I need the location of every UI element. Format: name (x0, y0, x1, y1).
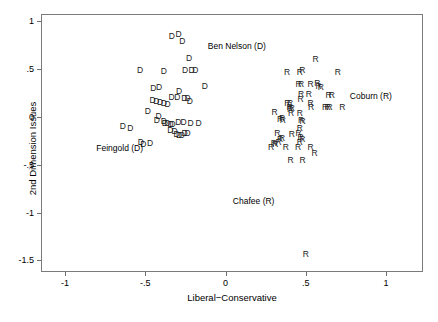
y-axis-tick (37, 260, 41, 261)
plot-frame (41, 14, 423, 272)
y-axis-tick-label: 1 (29, 16, 34, 26)
x-axis-tick (386, 272, 387, 276)
x-axis-tick (145, 272, 146, 276)
y-axis-tick (37, 69, 41, 70)
y-axis-tick-label: -1.5 (18, 255, 34, 265)
y-axis-title: 2nd Dimension Issues (27, 64, 38, 234)
x-axis-tick (306, 272, 307, 276)
x-axis-tick (226, 272, 227, 276)
x-axis-tick-label: .5 (302, 278, 310, 288)
y-axis-tick (37, 165, 41, 166)
x-axis-tick-label: 0 (223, 278, 228, 288)
x-axis-tick (65, 272, 66, 276)
x-axis-tick-label: 1 (384, 278, 389, 288)
y-axis-tick (37, 213, 41, 214)
x-axis-tick-label: -1 (61, 278, 69, 288)
scatter-plot: DDDDDDDDDDDDDDDDDDDDDDDDDDDDDDDDDDDDDDDD… (0, 0, 438, 322)
x-axis-title: Liberal−Conservative (41, 292, 423, 303)
x-axis-tick-label: -.5 (140, 278, 151, 288)
y-axis-tick (37, 117, 41, 118)
y-axis-tick (37, 21, 41, 22)
